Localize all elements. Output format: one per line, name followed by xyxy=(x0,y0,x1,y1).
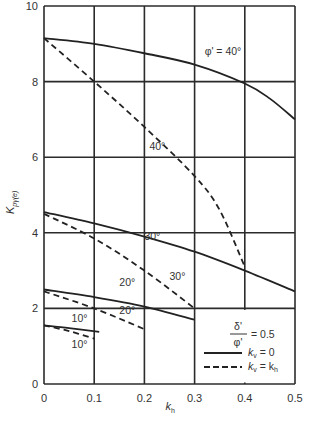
y-tick-label: 4 xyxy=(32,227,38,239)
x-tick-label: 0.1 xyxy=(87,392,102,404)
curve-label: 30° xyxy=(144,230,160,242)
axis-titles: khKpγ(e) xyxy=(4,191,175,414)
solid-curve xyxy=(44,38,295,119)
y-axis-title: Kpγ(e) xyxy=(4,191,19,214)
legend-entry-label: kv = kh xyxy=(248,360,278,373)
y-tick-label: 6 xyxy=(32,151,38,163)
x-tick-label: 0.4 xyxy=(237,392,252,404)
y-tick-label: 10 xyxy=(26,0,38,12)
legend-ratio-value: = 0.5 xyxy=(251,328,275,340)
legend-entry-label: kv = 0 xyxy=(248,346,275,359)
curve-label: 10° xyxy=(72,338,88,350)
y-tick-label: 0 xyxy=(32,378,38,390)
y-tick-label: 2 xyxy=(32,302,38,314)
x-axis-title: kh xyxy=(166,400,176,414)
dashed-curve xyxy=(44,214,195,309)
curve-label: 20° xyxy=(119,304,135,316)
x-tick-label: 0.5 xyxy=(287,392,302,404)
curve-label: 30° xyxy=(170,270,186,282)
x-tick-label: 0.2 xyxy=(137,392,152,404)
legend-ratio-numerator: δ' xyxy=(234,320,242,332)
y-tick-label: 8 xyxy=(32,76,38,88)
curve-label: 20° xyxy=(119,276,135,288)
legend-box xyxy=(196,310,293,383)
curve-label: 40° xyxy=(149,140,165,152)
data-series xyxy=(44,38,295,339)
x-tick-label: 0.3 xyxy=(187,392,202,404)
solid-curve xyxy=(44,325,99,331)
curve-labels: φ' = 40°40°30°30°20°20°10°10° xyxy=(72,45,242,350)
legend-ratio-denominator: φ' xyxy=(234,336,243,348)
line-chart: φ' = 40°40°30°30°20°20°10°10° 00.10.20.3… xyxy=(0,0,310,422)
curve-label: φ' = 40° xyxy=(205,45,242,57)
x-tick-label: 0 xyxy=(41,392,47,404)
curve-label: 10° xyxy=(72,312,88,324)
